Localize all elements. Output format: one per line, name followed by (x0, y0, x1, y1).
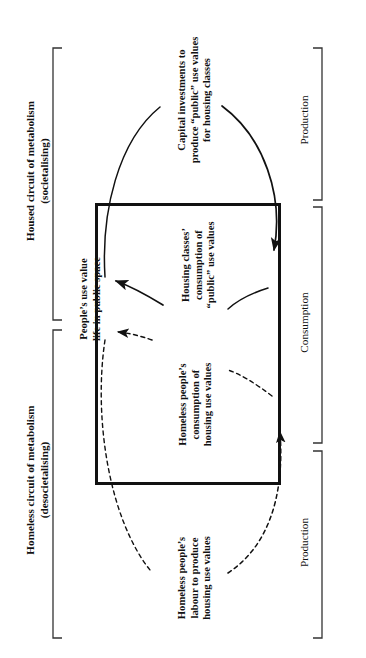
node-label-peoples-use-value: People’s use value life in public space (78, 234, 103, 364)
housed-consumption-arc-right (228, 288, 268, 309)
bracket-housed-circuit (53, 48, 62, 320)
phase-label-consumption: Consumption (298, 210, 311, 435)
housed-production-arc-right (222, 106, 277, 250)
bracket-production-top (313, 48, 322, 200)
bracket-production-bottom (313, 451, 322, 638)
homeless-production-arc-right (228, 432, 281, 573)
node-label-homeless-labour: Homeless people’s labour to produce hous… (176, 508, 214, 648)
node-label-housing-classes-consumption: Housing classes’ consumption of “public”… (180, 200, 218, 330)
phase-label-production-bottom: Production (298, 455, 311, 630)
bracket-consumption (313, 207, 322, 443)
homeless-consumption-arrow-left (118, 332, 152, 340)
node-label-homeless-consumption: Homeless people’s consumption of housing… (177, 337, 215, 472)
group-subtitle-homeless: (desocietalising) (38, 340, 51, 620)
phase-label-production-top: Production (298, 50, 311, 190)
homeless-production-arc-left (101, 340, 150, 570)
housed-consumption-arrow-left (116, 281, 163, 305)
housed-production-arc-left (104, 107, 160, 277)
group-subtitle-housed: (societalising) (38, 46, 51, 296)
group-title-housed: Housed circuit of metabolism (24, 46, 37, 296)
group-title-homeless: Homeless circuit of metabolism (24, 340, 37, 620)
bracket-homeless-circuit (53, 330, 62, 638)
diagram-canvas: Housed circuit of metabolism (societalis… (0, 0, 366, 658)
node-label-capital-investments: Capital investments to produce “public” … (176, 10, 214, 190)
homeless-consumption-arc-right (228, 370, 272, 396)
